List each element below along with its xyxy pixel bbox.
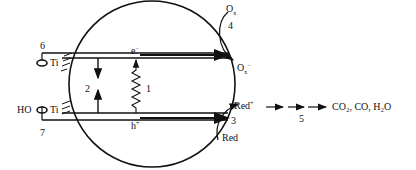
diagram-canvas	[0, 0, 416, 170]
label-4: 4	[228, 21, 233, 31]
label-1: 1	[146, 84, 151, 94]
label-6: 6	[40, 41, 45, 51]
excitation-zigzag	[132, 60, 140, 113]
label-ox: Ox	[226, 4, 236, 18]
ti-loop-top	[37, 53, 47, 66]
surface-ti-sites	[61, 53, 72, 114]
label-7: 7	[40, 128, 45, 138]
label-ox-minus: Ox−	[237, 60, 251, 77]
label-red-plus: Red+	[234, 98, 254, 111]
particle-circle	[69, 1, 235, 167]
label-ho: HO	[17, 105, 31, 115]
label-2: 2	[85, 84, 90, 94]
label-ti-bottom: Ti	[50, 105, 59, 115]
ti-loop-bottom	[37, 106, 47, 120]
label-hole: h+	[131, 118, 139, 131]
label-5: 5	[299, 114, 304, 124]
label-red: Red	[222, 133, 238, 143]
label-products: CO₂, CO, H₂O	[332, 102, 391, 112]
label-electron: e−	[131, 43, 139, 56]
label-3: 3	[231, 116, 236, 126]
label-ti-top: Ti	[50, 58, 59, 68]
